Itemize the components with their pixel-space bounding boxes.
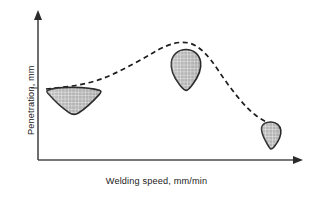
x-axis-arrowhead (293, 156, 303, 164)
y-axis-label: Penetration, mm (26, 65, 36, 135)
plot-canvas (0, 0, 313, 199)
y-axis-arrowhead (34, 10, 42, 20)
weld-bead-optimum-speed (171, 50, 201, 91)
weld-bead-high-speed (262, 122, 281, 149)
welding-penetration-figure: Welding speed, mm/min Penetration, mm (0, 0, 313, 199)
weld-bead-low-speed (47, 87, 101, 114)
x-axis (38, 156, 303, 164)
x-axis-label: Welding speed, mm/min (0, 176, 313, 186)
